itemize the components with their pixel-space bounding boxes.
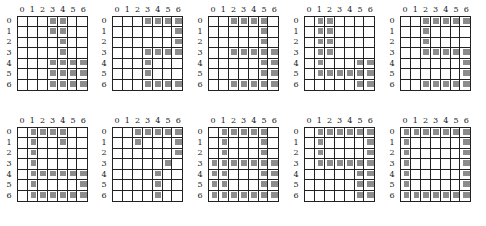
empty-cell [335,48,345,58]
empty-cell [18,180,28,190]
empty-cell [77,27,87,37]
column-labels: 0123456 [112,116,183,125]
empty-cell [113,128,123,138]
column-label: 4 [58,5,68,14]
empty-cell [143,159,153,169]
filled-cell [58,17,68,27]
filled-cell [259,59,269,69]
column-label: 2 [37,116,47,125]
grid [304,127,375,202]
empty-cell [355,17,365,27]
column-labels: 0123456 [17,5,88,14]
empty-cell [113,170,123,180]
empty-cell [143,149,153,159]
column-label: 4 [249,5,259,14]
filled-cell [229,191,239,201]
column-label: 0 [17,5,27,14]
empty-cell [209,17,219,27]
empty-cell [441,38,451,48]
row-label: 4 [290,170,302,181]
empty-cell [335,80,345,90]
empty-cell [28,27,38,37]
empty-cell [305,191,315,201]
filled-cell [364,170,374,180]
filled-cell [460,191,470,201]
row-labels: 0123456 [386,16,398,91]
row-label: 2 [386,37,398,48]
filled-cell [219,180,229,190]
filled-cell [249,48,259,58]
column-label: 1 [27,116,37,125]
filled-cell [441,191,451,201]
empty-cell [401,48,411,58]
column-label: 3 [335,116,345,125]
row-label: 4 [194,59,206,70]
empty-cell [113,80,123,90]
empty-cell [68,27,78,37]
filled-cell [172,38,182,48]
empty-cell [401,69,411,79]
row-label: 4 [98,59,110,70]
column-label: 5 [355,116,365,125]
empty-cell [249,69,259,79]
column-label: 6 [461,5,471,14]
empty-cell [153,159,163,169]
empty-cell [77,138,87,148]
filled-cell [315,138,325,148]
column-label: 1 [410,116,420,125]
filled-cell [68,59,78,69]
empty-cell [18,170,28,180]
filled-cell [460,170,470,180]
empty-cell [315,191,325,201]
column-label: 3 [48,5,58,14]
filled-cell [143,17,153,27]
empty-cell [68,138,78,148]
filled-cell [229,128,239,138]
empty-cell [163,180,173,190]
filled-cell [460,48,470,58]
row-label: 1 [386,27,398,38]
column-label: 5 [163,116,173,125]
row-label: 6 [194,80,206,91]
empty-cell [364,27,374,37]
column-label: 5 [259,116,269,125]
empty-cell [172,69,182,79]
filled-cell [259,80,269,90]
empty-cell [451,69,461,79]
filled-cell [451,191,461,201]
grid [208,16,279,91]
empty-cell [113,17,123,27]
empty-cell [451,59,461,69]
empty-cell [268,17,278,27]
empty-cell [113,69,123,79]
empty-cell [113,59,123,69]
filled-cell [451,80,461,90]
empty-cell [143,170,153,180]
empty-cell [431,38,441,48]
filled-cell [411,128,421,138]
empty-cell [113,191,123,201]
empty-cell [163,138,173,148]
empty-cell [38,38,48,48]
filled-cell [172,80,182,90]
column-label: 3 [48,116,58,125]
filled-cell [421,80,431,90]
empty-cell [68,149,78,159]
grid [112,127,183,202]
row-label: 4 [194,170,206,181]
filled-cell [355,159,365,169]
column-label: 0 [208,5,218,14]
empty-cell [345,59,355,69]
filled-cell [441,80,451,90]
filled-cell [28,128,38,138]
empty-cell [123,138,133,148]
empty-cell [335,59,345,69]
filled-cell [451,48,461,58]
empty-cell [38,48,48,58]
column-label: 2 [132,5,142,14]
column-label: 0 [112,5,122,14]
filled-cell [68,69,78,79]
filled-cell [431,128,441,138]
column-label: 6 [78,116,88,125]
filled-cell [364,59,374,69]
